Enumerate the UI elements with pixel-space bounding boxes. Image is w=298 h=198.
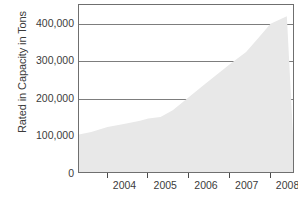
x-axis-tick-labels: 20042005200620072008 <box>78 179 294 195</box>
area-series <box>79 5 294 173</box>
x-axis-tick <box>147 173 148 178</box>
y-axis-tick-label: 0 <box>16 167 74 179</box>
footnote-fragment: ____ __ __ <box>14 190 59 197</box>
x-axis-tick <box>270 173 271 178</box>
area-path <box>79 16 294 173</box>
plot-area <box>78 4 294 173</box>
x-axis-tick <box>188 173 189 178</box>
y-axis-tick-labels: 0100,000200,000300,000400,000 <box>16 0 74 198</box>
y-axis-tick-label: 400,000 <box>16 17 74 29</box>
x-axis-tick-label: 2008 <box>276 179 298 191</box>
x-axis-tick <box>107 173 108 178</box>
y-axis-tick-label: 300,000 <box>16 54 74 66</box>
x-axis-tick-label: 2007 <box>235 179 258 191</box>
x-axis-tick <box>229 173 230 178</box>
y-axis-tick-label: 200,000 <box>16 92 74 104</box>
y-axis-tick-label: 100,000 <box>16 129 74 141</box>
x-axis-tick-label: 2006 <box>194 179 217 191</box>
x-axis-tick-label: 2005 <box>154 179 177 191</box>
chart-page: Rated in Capacity in Tons 0100,000200,00… <box>0 0 298 198</box>
x-axis-tick-label: 2004 <box>113 179 136 191</box>
